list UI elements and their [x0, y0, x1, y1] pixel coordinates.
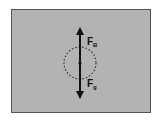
gravity-force-arrowhead-icon [76, 91, 84, 99]
center-point [78, 61, 81, 64]
lower-point [79, 78, 82, 81]
free-body-diagram [0, 0, 163, 121]
buoyant-force-label: FB [87, 37, 97, 48]
buoyant-force-arrowhead-icon [76, 27, 84, 35]
gravity-force-label: Fg [87, 79, 97, 90]
